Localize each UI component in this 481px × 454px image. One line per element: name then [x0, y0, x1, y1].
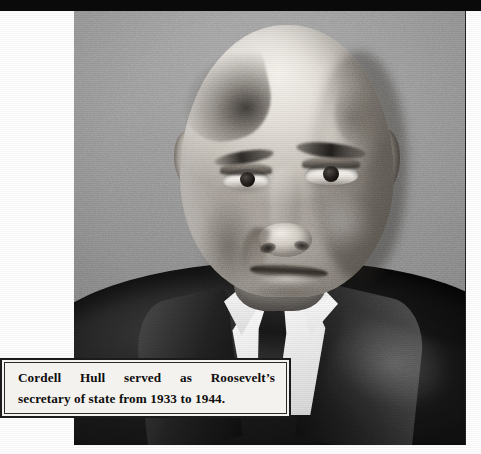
eye-undershadow: [304, 181, 358, 197]
eyelid: [220, 163, 272, 175]
page-edge-band: [0, 0, 481, 11]
cheek-highlight: [310, 197, 384, 263]
chin-shadow: [242, 289, 338, 315]
page-root: Cordell Hull served as Roosevelt’s secre…: [0, 0, 481, 454]
eye-right: [304, 163, 358, 185]
eye-undershadow: [222, 185, 270, 201]
caption-text: Cordell Hull served as Roosevelt’s secre…: [2, 367, 289, 410]
photo-caption-box: Cordell Hull served as Roosevelt’s secre…: [0, 358, 291, 418]
caption-line-2: secretary of state from 1933 to 1944.: [18, 388, 275, 409]
lower-lip: [256, 275, 320, 289]
caption-line-1: Cordell Hull served as Roosevelt’s: [18, 367, 275, 388]
eyelid: [302, 157, 360, 169]
eye-left: [222, 169, 270, 189]
jaw-shadow: [178, 197, 250, 307]
